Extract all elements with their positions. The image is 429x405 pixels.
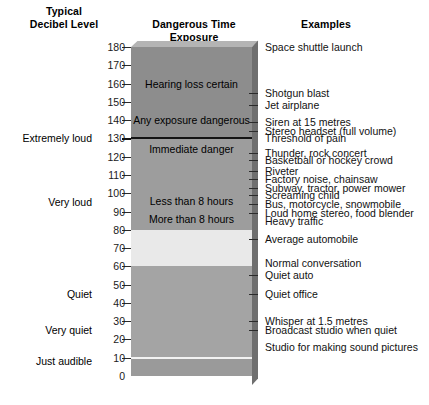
example-item: Space shuttle launch — [265, 42, 429, 53]
example-item: Average automobile — [265, 234, 429, 245]
decibel-chart: Typical Decibel Level Dangerous Time Exp… — [0, 0, 429, 405]
example-item: Threshold of pain — [265, 133, 429, 144]
example-item: Studio for making sound pictures — [265, 342, 429, 353]
example-item: Broadcast studio when quiet — [265, 325, 429, 336]
example-item: Quiet office — [265, 289, 429, 300]
example-item: Quiet auto — [265, 270, 429, 281]
examples-list: Space shuttle launchShotgun blastJet air… — [0, 0, 429, 405]
example-item: Normal conversation — [265, 258, 429, 269]
example-item: Shotgun blast — [265, 88, 429, 99]
example-item: Jet airplane — [265, 100, 429, 111]
example-item: Heavy traffic — [265, 216, 429, 227]
